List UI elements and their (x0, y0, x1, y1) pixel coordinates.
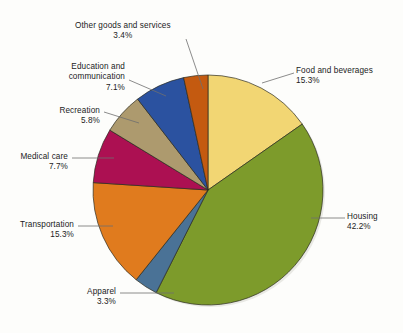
label-food-and-beverages: Food and beverages 15.3% (296, 66, 373, 87)
label-recreation: Recreation 5.8% (59, 106, 100, 127)
label-other-goods-and-services: Other goods and services 3.4% (75, 21, 171, 42)
label-apparel-percent: 3.3% (87, 297, 116, 307)
label-recreation-text: Recreation (59, 106, 100, 115)
label-medical-care-text: Medical care (20, 152, 68, 161)
label-food-and-beverages-percent: 15.3% (296, 76, 373, 86)
label-housing-text: Housing (347, 212, 378, 221)
label-other-goods-and-services-text: Other goods and services (75, 21, 171, 30)
pie-slices-group (93, 75, 323, 305)
label-apparel: Apparel 3.3% (87, 287, 116, 308)
label-education-and-communication-text-line2: communication (69, 72, 125, 82)
label-transportation: Transportation 15.3% (20, 220, 74, 241)
label-education-and-communication-percent: 7.1% (69, 83, 125, 93)
pie-chart-figure: Food and beverages 15.3% Housing 42.2% A… (0, 0, 403, 333)
label-other-goods-and-services-percent: 3.4% (75, 31, 171, 41)
label-recreation-percent: 5.8% (59, 116, 100, 126)
label-education-and-communication-text-line1: Education and (71, 62, 125, 71)
label-education-and-communication: Education and communication 7.1% (69, 62, 125, 93)
label-transportation-text: Transportation (20, 220, 74, 229)
label-housing-percent: 42.2% (347, 222, 378, 232)
label-medical-care: Medical care 7.7% (20, 152, 68, 173)
label-transportation-percent: 15.3% (20, 230, 74, 240)
label-medical-care-percent: 7.7% (20, 162, 68, 172)
label-housing: Housing 42.2% (347, 212, 378, 233)
label-food-and-beverages-text: Food and beverages (296, 66, 373, 75)
label-apparel-text: Apparel (87, 287, 116, 296)
leader-line-food-and-beverages (262, 73, 294, 83)
